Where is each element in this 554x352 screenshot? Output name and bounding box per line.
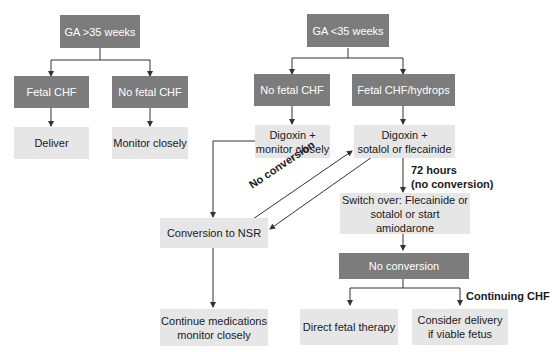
- switch-over-box: Switch over: Flecainide or sotalol or st…: [340, 193, 470, 234]
- digoxin-sotalol-box: Digoxin + sotalol or flecainide: [354, 125, 455, 158]
- no-conversion-box: No conversion: [339, 253, 469, 279]
- no-fetal-chf-box-left: No fetal CHF: [112, 76, 188, 108]
- ga-over-35-box: GA >35 weeks: [60, 15, 140, 48]
- continue-medications-box: Continue medications monitor closely: [160, 309, 268, 346]
- continuing-chf-label: Continuing CHF: [466, 289, 550, 303]
- direct-fetal-therapy-box: Direct fetal therapy: [300, 309, 398, 345]
- fetal-chf-hydrops-box: Fetal CHF/hydrops: [352, 74, 455, 106]
- monitor-closely-box: Monitor closely: [112, 127, 188, 159]
- consider-delivery-box: Consider delivery if viable fetus: [412, 309, 508, 345]
- deliver-box: Deliver: [14, 127, 89, 159]
- fetal-chf-box: Fetal CHF: [14, 76, 89, 108]
- hours-72-label: 72 hours (no conversion): [411, 163, 494, 191]
- conversion-nsr-box: Conversion to NSR: [160, 218, 268, 248]
- no-fetal-chf-box-right: No fetal CHF: [254, 74, 330, 106]
- ga-under-35-box: GA <35 weeks: [307, 14, 389, 47]
